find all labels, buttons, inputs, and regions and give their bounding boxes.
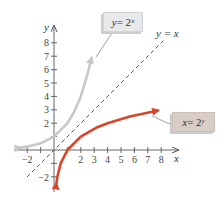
exp-sup: x	[131, 17, 134, 25]
log-sup: y	[202, 117, 205, 125]
svg-text:5: 5	[44, 78, 49, 89]
svg-text:−2: −2	[22, 154, 33, 165]
svg-text:3: 3	[44, 104, 49, 115]
svg-text:4: 4	[44, 91, 49, 102]
log-eq: = 2	[187, 116, 201, 128]
svg-text:2: 2	[78, 154, 83, 165]
svg-text:6: 6	[132, 154, 137, 165]
svg-text:8: 8	[44, 37, 49, 48]
identity-equation-label: y = x	[156, 27, 179, 39]
log-leader-line	[152, 116, 172, 125]
svg-text:5: 5	[119, 154, 124, 165]
exp-leader-line	[96, 33, 112, 57]
y-axis-label: y	[43, 21, 49, 33]
log-equation-label: x = 2y	[172, 112, 215, 132]
svg-text:8: 8	[159, 154, 164, 165]
function-plot: −2 2 3 4 5 6 7 8 −2 2 3 4 5 6 7 8 x y	[0, 0, 224, 220]
exponential-curve	[21, 58, 92, 148]
svg-text:4: 4	[105, 154, 110, 165]
svg-text:−2: −2	[38, 172, 49, 183]
svg-text:7: 7	[145, 154, 150, 165]
svg-text:3: 3	[92, 154, 97, 165]
x-tick-labels: −2 2 3 4 5 6 7 8	[22, 154, 164, 165]
exp-eq: = 2	[117, 16, 131, 28]
exp-equation-label: y = 2x	[103, 12, 143, 32]
x-axis-label: x	[173, 152, 179, 164]
svg-text:6: 6	[44, 64, 49, 75]
svg-text:2: 2	[44, 118, 49, 129]
svg-text:7: 7	[44, 51, 49, 62]
